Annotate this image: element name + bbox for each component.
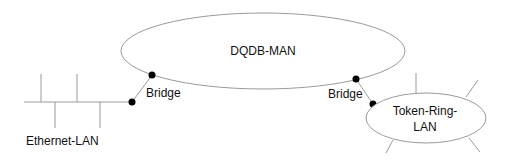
dqdb-man-label: DQDB-MAN — [230, 44, 295, 58]
bridge-label-2: Bridge — [328, 87, 363, 101]
bridge-label-1: Bridge — [146, 86, 181, 100]
token-ring-label-line2: LAN — [413, 120, 436, 134]
token-ring-label-line1: Token-Ring- — [393, 104, 458, 118]
ethernet-lan-label: Ethernet-LAN — [26, 134, 99, 148]
bridge-ethernet-man: Bridge — [129, 72, 182, 106]
token-ring-lan-node: Token-Ring- LAN — [366, 73, 486, 153]
ethernet-lan-node — [24, 74, 132, 128]
network-diagram: DQDB-MAN Ethernet-LAN Bridge Bridge Toke… — [0, 0, 507, 164]
dqdb-man-node: DQDB-MAN — [121, 13, 405, 89]
